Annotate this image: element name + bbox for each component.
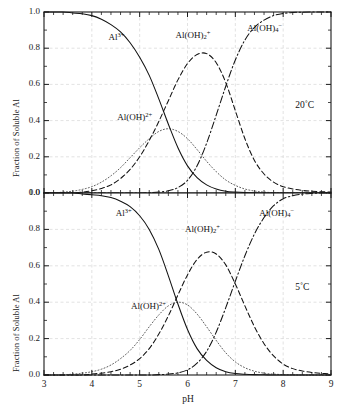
y-tick-label: 0.0 xyxy=(16,369,40,379)
curve-label-aloh2_plus-bottom: Al(OH)2+ xyxy=(185,224,220,234)
curve-label-al3-top: Al3+ xyxy=(109,32,125,42)
temperature-annotation-bottom: 5˚C xyxy=(295,282,309,292)
y-tick-label: 1.0 xyxy=(16,187,40,197)
y-tick-label: 0.6 xyxy=(16,260,40,270)
x-tick-label: 5 xyxy=(130,379,150,389)
x-axis-title: pH xyxy=(168,394,208,404)
y-tick-label: 0.8 xyxy=(16,42,40,52)
y-tick-label: 0.8 xyxy=(16,223,40,233)
y-tick-label: 0.4 xyxy=(16,115,40,125)
temperature-annotation-top: 20˚C xyxy=(295,100,314,110)
x-tick-label: 4 xyxy=(82,379,102,389)
y-tick-label: 0.2 xyxy=(16,151,40,161)
y-tick-label: 0.6 xyxy=(16,78,40,88)
curve-label-al3-bottom: Al3+ xyxy=(116,208,132,218)
y-tick-label: 1.0 xyxy=(16,6,40,16)
x-tick-label: 6 xyxy=(178,379,198,389)
x-tick-label: 8 xyxy=(273,379,293,389)
x-tick-label: 7 xyxy=(225,379,245,389)
y-tick-label: 0.4 xyxy=(16,296,40,306)
curve-label-aloh4-bottom: Al(OH)4− xyxy=(259,208,294,218)
curve-label-aloh2_plus-top: Al(OH)2+ xyxy=(176,30,211,40)
curve-label-aloh2plus-top: Al(OH)2+ xyxy=(117,112,152,122)
aluminium-speciation-figure: Fraction of Soluble Al Fraction of Solub… xyxy=(0,0,345,413)
x-tick-label: 3 xyxy=(34,379,54,389)
curve-label-aloh2plus-bottom: Al(OH)2+ xyxy=(131,301,166,311)
y-axis-title-top: Fraction of Soluble Al xyxy=(11,99,21,177)
curve-label-aloh4-top: Al(OH)4− xyxy=(247,23,282,33)
y-tick-label: 0.2 xyxy=(16,333,40,343)
x-tick-label: 9 xyxy=(321,379,341,389)
